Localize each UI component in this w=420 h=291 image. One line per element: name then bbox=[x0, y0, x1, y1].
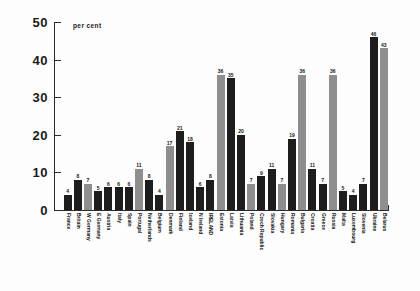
x-axis-label: France bbox=[63, 213, 72, 283]
bar-value-label: 8 bbox=[148, 174, 151, 179]
x-axis-label: Ukraine bbox=[369, 213, 378, 283]
x-axis-label: Bulgaria bbox=[298, 213, 307, 283]
x-axis-label: Malta bbox=[338, 213, 347, 283]
x-axis-label: Slovakia bbox=[267, 213, 276, 283]
x-axis-label: E Germany bbox=[94, 213, 103, 283]
x-axis-label: Russia bbox=[328, 213, 337, 283]
x-axis-label: Estonia bbox=[216, 213, 225, 283]
bar-value-label: 4 bbox=[158, 189, 161, 194]
bar-value-label: 6 bbox=[127, 182, 130, 187]
bar: 35 bbox=[227, 78, 235, 210]
bar: 7 bbox=[278, 184, 286, 210]
bar-value-label: 21 bbox=[177, 126, 183, 131]
x-axis-label: Latvia bbox=[226, 213, 235, 283]
x-axis-label: Czech Republic bbox=[257, 213, 266, 283]
bar: 21 bbox=[176, 131, 184, 210]
bar: 36 bbox=[298, 75, 306, 210]
bar-value-label: 8 bbox=[76, 174, 79, 179]
bar-value-label: 18 bbox=[187, 137, 193, 142]
bar: 6 bbox=[196, 187, 204, 210]
bar-value-label: 7 bbox=[321, 178, 324, 183]
bar-value-label: 11 bbox=[136, 163, 141, 168]
x-axis-label: N Ireland bbox=[196, 213, 205, 283]
bar-value-label: 7 bbox=[250, 178, 253, 183]
y-tick-label: 0 bbox=[22, 204, 48, 217]
x-axis-label: Italy bbox=[114, 213, 123, 283]
bar-value-label: 5 bbox=[97, 186, 100, 191]
x-axis-label: Luxembourg bbox=[349, 213, 358, 283]
bar-value-label: 4 bbox=[66, 189, 69, 194]
x-axis-label: Belarus bbox=[379, 213, 388, 283]
x-axis-label: Croatia bbox=[308, 213, 317, 283]
bar-value-label: 8 bbox=[209, 174, 212, 179]
x-axis-label: Netherlands bbox=[145, 213, 154, 283]
y-tick-label: 10 bbox=[22, 166, 48, 179]
bar: 7 bbox=[247, 184, 255, 210]
bar: 7 bbox=[319, 184, 327, 210]
bar-value-label: 46 bbox=[371, 32, 377, 37]
bar: 20 bbox=[237, 135, 245, 210]
bar-value-label: 19 bbox=[289, 133, 295, 138]
bar: 6 bbox=[125, 187, 133, 210]
bar: 8 bbox=[206, 180, 214, 210]
x-axis-label: Britain bbox=[73, 213, 82, 283]
y-tick-label: 30 bbox=[22, 91, 48, 104]
bar-value-label: 9 bbox=[260, 171, 263, 176]
bar: 19 bbox=[288, 139, 296, 210]
x-axis-label: IRELAND bbox=[206, 213, 215, 283]
x-axis-label: Poland bbox=[247, 213, 256, 283]
bar: 18 bbox=[186, 142, 194, 210]
bar-chart: per cent 01020304050 4875666118417211868… bbox=[0, 0, 420, 291]
x-axis-label: Romania bbox=[287, 213, 296, 283]
bar-value-label: 35 bbox=[228, 73, 234, 78]
bar-value-label: 20 bbox=[238, 129, 244, 134]
bar: 11 bbox=[308, 169, 316, 210]
bar: 9 bbox=[257, 176, 265, 210]
bar-value-label: 17 bbox=[167, 141, 173, 146]
x-axis-line bbox=[54, 210, 389, 211]
bar: 46 bbox=[370, 37, 378, 210]
bar: 36 bbox=[217, 75, 225, 210]
bar-value-label: 4 bbox=[352, 189, 355, 194]
bar: 8 bbox=[74, 180, 82, 210]
bar-value-label: 6 bbox=[107, 182, 110, 187]
bar: 36 bbox=[329, 75, 337, 210]
bar-value-label: 36 bbox=[299, 69, 305, 74]
bar: 43 bbox=[380, 48, 388, 210]
bar: 5 bbox=[94, 191, 102, 210]
bar-value-label: 11 bbox=[269, 163, 274, 168]
x-axis-label: Finland bbox=[175, 213, 184, 283]
y-tick-label: 40 bbox=[22, 54, 48, 67]
x-axis-label: Lithuania bbox=[236, 213, 245, 283]
bar-value-label: 5 bbox=[342, 186, 345, 191]
bar: 17 bbox=[166, 146, 174, 210]
x-axis-label: Austria bbox=[104, 213, 113, 283]
bar: 7 bbox=[359, 184, 367, 210]
x-axis-label: Denmark bbox=[165, 213, 174, 283]
bar: 11 bbox=[135, 169, 143, 210]
x-axis-label: Belgium bbox=[155, 213, 164, 283]
x-axis-label: Iceland bbox=[185, 213, 194, 283]
bar-value-label: 7 bbox=[87, 178, 90, 183]
x-axis-endcap bbox=[388, 205, 389, 211]
bar: 6 bbox=[115, 187, 123, 210]
bar-value-label: 43 bbox=[381, 43, 387, 48]
x-axis-label: Spain bbox=[124, 213, 133, 283]
bar: 8 bbox=[145, 180, 153, 210]
bars-layer: 4875666118417211868363520791171936117365… bbox=[55, 22, 386, 210]
x-axis-label: Hungary bbox=[277, 213, 286, 283]
bar-value-label: 36 bbox=[218, 69, 224, 74]
bar-value-label: 11 bbox=[310, 163, 315, 168]
bar: 4 bbox=[349, 195, 357, 210]
bar: 5 bbox=[339, 191, 347, 210]
x-axis-label: Greece bbox=[318, 213, 327, 283]
x-axis-label: Slovenia bbox=[359, 213, 368, 283]
bar: 4 bbox=[64, 195, 72, 210]
bar: 6 bbox=[104, 187, 112, 210]
bar-value-label: 6 bbox=[117, 182, 120, 187]
bar: 11 bbox=[268, 169, 276, 210]
bar: 7 bbox=[84, 184, 92, 210]
y-tick-label: 50 bbox=[22, 16, 48, 29]
bar-value-label: 7 bbox=[280, 178, 283, 183]
y-tick-label: 20 bbox=[22, 129, 48, 142]
